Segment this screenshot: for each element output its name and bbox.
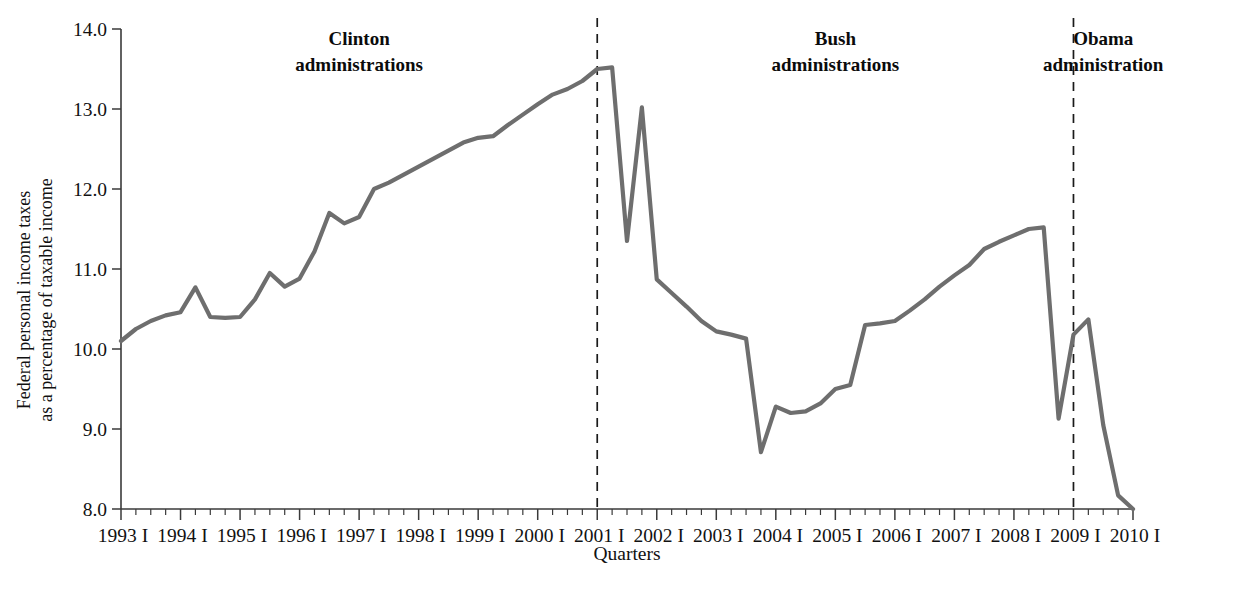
x-tick-label-3: 1996 I: [276, 525, 326, 546]
x-axis-title: Quarters: [593, 543, 660, 564]
x-tick-label-12: 2005 I: [812, 525, 862, 546]
x-tick-label-2: 1995 I: [217, 525, 267, 546]
chart-figure: 14.013.012.011.010.09.08.0 1993 I1994 I1…: [0, 0, 1250, 591]
annotation-clinton-line2: administrations: [295, 54, 423, 75]
x-tick-label-10: 2003 I: [693, 525, 743, 546]
x-axis: [121, 509, 1133, 520]
y-tick-label-4: 10.0: [73, 339, 107, 360]
x-tick-label-1: 1994 I: [157, 525, 207, 546]
y-tick-label-5: 9.0: [83, 419, 107, 440]
annotation-bush-line2: administrations: [771, 54, 899, 75]
x-tick-label-6: 1999 I: [455, 525, 505, 546]
data-series: [121, 67, 1133, 509]
y-axis-title: Federal personal income taxes as a perce…: [14, 178, 56, 421]
annotation-clinton-line1: Clinton: [328, 28, 390, 49]
annotation-obama-line1: Obama: [1073, 28, 1134, 49]
x-tick-label-7: 2000 I: [515, 525, 565, 546]
y-axis-title-line2: as a percentage of taxable income: [36, 178, 56, 421]
x-tick-label-16: 2009 I: [1050, 525, 1100, 546]
x-tick-label-4: 1997 I: [336, 525, 386, 546]
x-tick-label-0: 1993 I: [98, 525, 148, 546]
y-tick-label-0: 14.0: [73, 19, 107, 40]
x-tick-label-5: 1998 I: [395, 525, 445, 546]
y-tick-label-1: 13.0: [73, 99, 107, 120]
y-axis: [112, 29, 121, 509]
x-tick-label-14: 2007 I: [931, 525, 981, 546]
x-tick-label-17: 2010 I: [1110, 525, 1160, 546]
y-tick-label-6: 8.0: [83, 499, 107, 520]
administration-dividers: [597, 18, 1073, 509]
x-tick-label-13: 2006 I: [872, 525, 922, 546]
x-tick-label-11: 2004 I: [753, 525, 803, 546]
annotation-obama-line2: administration: [1043, 54, 1164, 75]
x-tick-label-15: 2008 I: [991, 525, 1041, 546]
y-tick-labels: 14.013.012.011.010.09.08.0: [73, 19, 107, 520]
chart-canvas: 14.013.012.011.010.09.08.0 1993 I1994 I1…: [0, 0, 1250, 591]
y-axis-title-line1: Federal personal income taxes: [14, 191, 34, 409]
y-tick-label-3: 11.0: [74, 259, 107, 280]
y-tick-label-2: 12.0: [73, 179, 107, 200]
series-line-federal-income-tax-share: [121, 67, 1133, 509]
administration-annotations: ClintonadministrationsBushadministration…: [295, 28, 1164, 75]
annotation-bush-line1: Bush: [815, 28, 857, 49]
